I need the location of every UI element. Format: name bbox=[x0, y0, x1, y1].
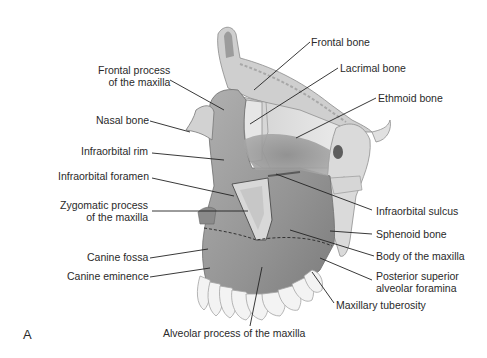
panel-letter: A bbox=[23, 327, 32, 342]
label-line: Frontal process bbox=[98, 64, 170, 76]
label-sphenoid-bone: Sphenoid bone bbox=[376, 228, 447, 240]
label-nasal-bone: Nasal bone bbox=[96, 114, 149, 126]
label-infraorbital-rim: Infraorbital rim bbox=[81, 145, 148, 157]
label-line: alveolar foramina bbox=[376, 282, 459, 294]
label-infraorbital-foramen: Infraorbital foramen bbox=[58, 170, 149, 182]
label-line: of the maxilla bbox=[98, 76, 170, 88]
label-frontal-bone: Frontal bone bbox=[311, 36, 370, 48]
label-line: Posterior superior bbox=[376, 270, 459, 282]
label-body-of-maxilla: Body of the maxilla bbox=[376, 250, 465, 262]
label-ethmoid-bone: Ethmoid bone bbox=[378, 92, 443, 104]
label-zygomatic-process: Zygomatic process of the maxilla bbox=[60, 199, 148, 223]
label-maxillary-tuberosity: Maxillary tuberosity bbox=[336, 299, 426, 311]
label-alveolar-process: Alveolar process of the maxilla bbox=[163, 327, 305, 339]
label-frontal-process: Frontal process of the maxilla bbox=[98, 64, 170, 88]
label-line: of the maxilla bbox=[60, 211, 148, 223]
label-line: Zygomatic process bbox=[60, 199, 148, 211]
label-infraorbital-sulcus: Infraorbital sulcus bbox=[376, 205, 458, 217]
label-canine-eminence: Canine eminence bbox=[67, 270, 149, 282]
label-posterior-superior-alveolar-foramina: Posterior superior alveolar foramina bbox=[376, 270, 459, 294]
label-canine-fossa: Canine fossa bbox=[87, 251, 148, 263]
anatomy-figure: Frontal process of the maxilla Nasal bon… bbox=[0, 0, 487, 358]
label-lacrimal-bone: Lacrimal bone bbox=[340, 62, 406, 74]
